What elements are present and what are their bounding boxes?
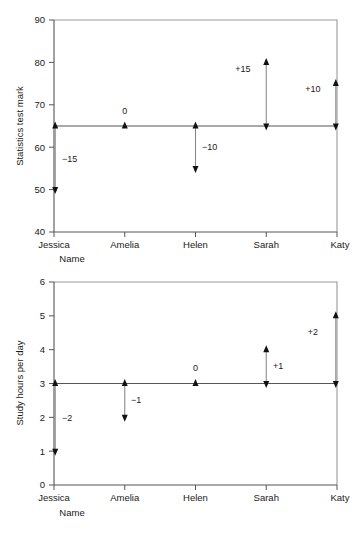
deviation-helen-bottom: 0 <box>193 363 199 386</box>
arrow-head-down-helen-top <box>193 166 199 173</box>
marker-helen-bottom <box>193 379 199 386</box>
deviation-jessica-top: −15 <box>52 122 77 195</box>
deviation-katy-top: +10 <box>305 79 338 130</box>
y-tick-label-4: 4 <box>40 344 45 355</box>
deviation-amelia-top: 0 <box>122 106 128 129</box>
arrow-head-down-amelia-bottom <box>122 415 128 422</box>
y-tick-label-6: 6 <box>40 276 45 287</box>
x-ticks-bottom <box>54 485 337 490</box>
arrow-head-down-katy-top <box>333 124 339 131</box>
deviation-jessica-bottom: −2 <box>52 379 72 456</box>
deviation-amelia-bottom: −1 <box>122 379 142 422</box>
deviation-label-jessica-bottom: −2 <box>62 413 72 423</box>
x-category-label-jessica-bottom: Jessica <box>38 492 70 503</box>
arrow-head-up-sarah-bottom <box>263 345 269 352</box>
y-tick-label-50: 50 <box>34 184 45 195</box>
x-category-label-katy-bottom: Katy <box>330 492 349 503</box>
x-category-label-amelia-bottom: Amelia <box>110 492 140 503</box>
arrow-head-up-sarah-top <box>263 58 269 65</box>
deviation-label-sarah-top: +15 <box>235 64 250 74</box>
y-ticks-top <box>49 20 54 232</box>
deviation-sarah-top: +15 <box>235 58 269 131</box>
arrow-head-up-helen-top <box>193 122 199 129</box>
y-tick-label-2: 2 <box>40 412 45 423</box>
deviation-label-amelia-bottom: −1 <box>131 395 141 405</box>
x-category-label-jessica-top: Jessica <box>38 239 70 250</box>
y-tick-label-3: 3 <box>40 378 45 389</box>
y-tick-label-90: 90 <box>34 14 45 25</box>
y-tick-label-70: 70 <box>34 99 45 110</box>
deviation-label-katy-bottom: +2 <box>308 327 318 337</box>
chart-study-hours-per-day-svg: 0 1 2 3 4 5 6 −2 −1 <box>0 270 360 535</box>
y-tick-label-1: 1 <box>40 446 45 457</box>
deviation-label-amelia-top: 0 <box>122 106 127 116</box>
x-category-label-sarah-top: Sarah <box>254 239 279 250</box>
arrow-head-up-jessica-bottom <box>52 379 58 386</box>
deviation-sarah-bottom: +1 <box>263 345 283 388</box>
deviation-label-jessica-top: −15 <box>62 154 77 164</box>
deviation-label-katy-top: +10 <box>305 84 320 94</box>
y-tick-label-0: 0 <box>40 479 45 490</box>
arrow-head-down-katy-bottom <box>333 381 339 388</box>
chart-statistics-test-mark-svg: 40 50 60 70 80 90 −15 <box>0 0 360 270</box>
chart-study-hours-per-day: 0 1 2 3 4 5 6 −2 −1 <box>0 270 360 535</box>
arrow-head-down-sarah-top <box>263 124 269 131</box>
y-tick-label-40: 40 <box>34 226 45 237</box>
deviation-katy-bottom: +2 <box>308 311 339 388</box>
y-ticks-bottom <box>49 282 54 485</box>
arrow-head-down-jessica-bottom <box>52 449 58 456</box>
arrow-head-down-sarah-bottom <box>263 381 269 388</box>
arrow-head-up-katy-bottom <box>333 311 339 318</box>
x-category-label-helen-bottom: Helen <box>183 492 208 503</box>
marker-amelia-top <box>122 122 128 129</box>
x-category-label-amelia-top: Amelia <box>110 239 140 250</box>
deviation-label-helen-top: −10 <box>202 142 217 152</box>
x-category-label-helen-top: Helen <box>183 239 208 250</box>
deviation-label-sarah-bottom: +1 <box>273 361 283 371</box>
y-tick-label-60: 60 <box>34 142 45 153</box>
deviation-label-helen-bottom: 0 <box>193 363 198 373</box>
x-axis-title-top: Name <box>59 253 84 264</box>
y-axis-title-top: Statistics test mark <box>14 86 25 166</box>
arrow-head-down-jessica-top <box>52 187 58 194</box>
deviation-helen-top: −10 <box>193 122 218 173</box>
x-ticks-top <box>54 232 337 237</box>
x-axis-title-bottom: Name <box>59 507 84 518</box>
y-tick-label-80: 80 <box>34 57 45 68</box>
arrow-head-up-jessica-top <box>52 122 58 129</box>
y-tick-label-5: 5 <box>40 310 45 321</box>
x-category-label-sarah-bottom: Sarah <box>254 492 279 503</box>
y-axis-title-bottom: Study hours per day <box>14 340 25 425</box>
chart-statistics-test-mark: 40 50 60 70 80 90 −15 <box>0 0 360 270</box>
arrow-head-up-katy-top <box>333 79 339 86</box>
arrow-head-up-amelia-bottom <box>122 379 128 386</box>
x-category-label-katy-top: Katy <box>330 239 349 250</box>
